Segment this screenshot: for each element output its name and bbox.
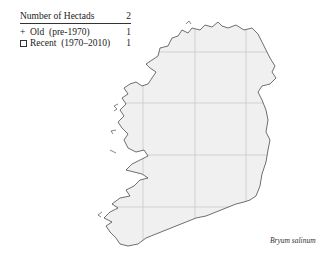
legend-header: Number of Hectads 2 xyxy=(20,11,131,24)
plus-icon: + xyxy=(20,27,30,38)
legend-row-value: 1 xyxy=(126,27,131,38)
legend-header-label: Number of Hectads xyxy=(20,11,94,22)
legend-row-value: 1 xyxy=(126,38,131,49)
legend-header-value: 2 xyxy=(126,11,131,22)
square-icon xyxy=(20,40,27,47)
legend-row-old: +Old (pre-1970) 1 xyxy=(20,27,131,38)
legend-row-recent: Recent (1970–2010) 1 xyxy=(20,38,131,49)
legend-row-label: Recent (1970–2010) xyxy=(30,38,110,48)
land-fill xyxy=(104,22,276,246)
legend-row-label: Old (pre-1970) xyxy=(30,27,90,37)
species-name: Bryum salinum xyxy=(270,236,316,245)
legend: Number of Hectads 2 +Old (pre-1970) 1 Re… xyxy=(20,11,131,49)
